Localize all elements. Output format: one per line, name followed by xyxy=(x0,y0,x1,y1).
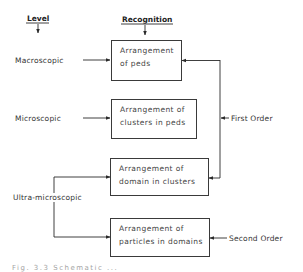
level-label-macroscopic: Macroscopic xyxy=(15,56,64,65)
first-order-label: First Order xyxy=(231,114,273,123)
box-arrangement-of-peds: Arrangement of peds xyxy=(111,40,182,81)
level-header: Level xyxy=(27,14,49,23)
box-line: domain in clusters xyxy=(119,176,208,189)
box-line: of peds xyxy=(120,58,181,71)
box-line: clusters in peds xyxy=(120,117,196,130)
second-order-label: Second Order xyxy=(229,234,283,243)
box-line: Arrangement of xyxy=(119,223,209,236)
box-line: Arrangement of xyxy=(119,163,208,176)
box-line: particles in domains xyxy=(119,236,209,249)
recognition-header: Recognition xyxy=(122,15,172,24)
level-label-microscopic: Microscopic xyxy=(15,114,61,123)
box-arrangement-of-domain-in-clusters: Arrangement of domain in clusters xyxy=(110,158,209,196)
figure-caption: Fig. 3.3 Schematic ... xyxy=(12,264,118,272)
level-label-ultra-microscopic: Ultra-microscopic xyxy=(12,193,83,202)
box-arrangement-of-particles-in-domains: Arrangement of particles in domains xyxy=(110,218,210,257)
box-line: Arrangement of xyxy=(120,104,196,117)
box-line: Arrangement xyxy=(120,45,181,58)
box-arrangement-of-clusters-in-peds: Arrangement of clusters in peds xyxy=(111,99,197,139)
